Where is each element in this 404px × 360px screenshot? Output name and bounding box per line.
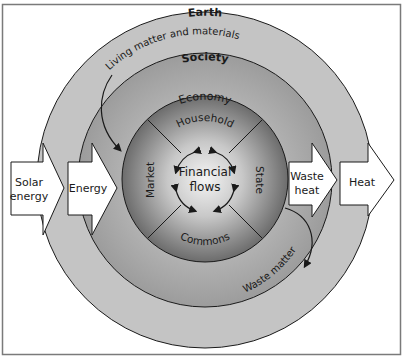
heat-label: Heat	[349, 176, 376, 189]
earth-label: Earth	[187, 6, 222, 20]
financial-flows-line1: Financial	[179, 165, 232, 179]
sector-market-label: Market	[144, 162, 156, 198]
solar-energy-line2: energy	[10, 190, 49, 203]
sector-state-label: State	[254, 166, 266, 194]
solar-energy-line1: Solar	[15, 176, 44, 189]
waste-heat-line1: Waste	[290, 170, 324, 183]
financial-flows-line2: flows	[190, 180, 221, 194]
waste-heat-line2: heat	[295, 184, 320, 197]
energy-label: Energy	[69, 182, 108, 195]
doughnut-economy-diagram: Earth Living matter and materials Societ…	[0, 0, 404, 360]
